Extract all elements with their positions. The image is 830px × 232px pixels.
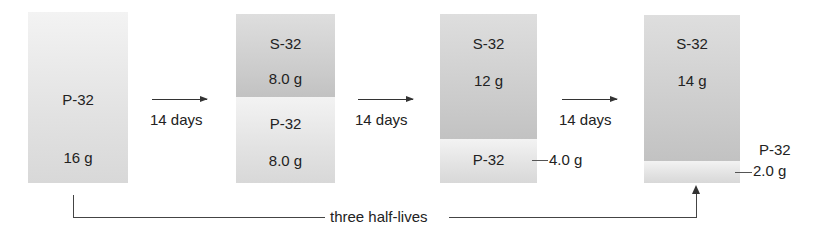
transition-label: 14 days: [559, 111, 612, 128]
bracket-left-vertical: [73, 195, 74, 218]
transition-label: 14 days: [150, 111, 203, 128]
isotope-label: P-32: [759, 141, 791, 158]
mass-label: 14 g: [644, 72, 740, 89]
arrow-right-icon: [562, 99, 617, 100]
mass-label: 12 g: [440, 72, 537, 89]
leader-line: [735, 172, 752, 173]
isotope-label: P-32: [440, 151, 537, 168]
mass-label: 4.0 g: [549, 151, 582, 168]
bracket-horizontal-right: [449, 217, 697, 218]
transition-label: 14 days: [355, 111, 408, 128]
leader-line: [532, 160, 548, 161]
mass-label: 16 g: [28, 149, 128, 166]
arrow-right-icon: [358, 99, 413, 100]
bracket-horizontal-left: [73, 217, 325, 218]
isotope-label: S-32: [440, 35, 537, 52]
isotope-label: P-32: [28, 91, 128, 108]
mass-label: 8.0 g: [236, 152, 335, 169]
isotope-label: P-32: [236, 115, 335, 132]
mass-label: 8.0 g: [236, 70, 335, 87]
sample-block-after-2-half-lives: S-32 12 g P-32: [440, 14, 537, 183]
isotope-label: S-32: [236, 35, 335, 52]
bracket-label: three half-lives: [330, 208, 428, 225]
arrow-right-icon: [152, 99, 207, 100]
sample-block-after-3-half-lives: S-32 14 g: [644, 15, 740, 183]
sample-block-after-1-half-life: S-32 8.0 g P-32 8.0 g: [236, 14, 335, 183]
isotope-label: S-32: [644, 35, 740, 52]
p32-segment: [644, 161, 740, 183]
p32-segment: [236, 97, 335, 183]
arrow-up-icon: [692, 185, 700, 194]
mass-label: 2.0 g: [753, 162, 786, 179]
sample-block-initial: P-32 16 g: [28, 12, 128, 183]
bracket-right-vertical: [696, 192, 697, 218]
